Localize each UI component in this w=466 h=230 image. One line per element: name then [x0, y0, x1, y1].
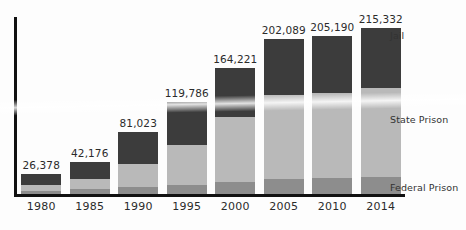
bar-segment-state-prison [361, 88, 401, 177]
y-axis-line [14, 17, 17, 197]
bar-segment-federal-prison [312, 178, 352, 194]
bar-value-label: 42,176 [71, 147, 108, 159]
bar-1990[interactable]: 81,023 [118, 132, 158, 194]
x-tick-1995: 1995 [164, 200, 210, 213]
x-tick-1980: 1980 [18, 200, 64, 213]
bar-1985[interactable]: 42,176 [70, 162, 110, 194]
x-axis-line [14, 194, 405, 197]
x-tick-2005: 2005 [261, 200, 307, 213]
bar-segment-state-prison [118, 164, 158, 187]
stacked-bar-chart: 26,37842,17681,023119,786164,221202,0892… [0, 0, 466, 230]
series-label-state-prison: State Prison [390, 114, 448, 125]
bar-segment-federal-prison [167, 185, 207, 194]
x-tick-2000: 2000 [212, 200, 258, 213]
x-tick-2010: 2010 [309, 200, 355, 213]
bar-value-label: 119,786 [165, 87, 209, 99]
bar-segment-federal-prison [215, 182, 255, 194]
bar-segment-jail [118, 132, 158, 164]
bar-value-label: 215,332 [359, 13, 403, 25]
bar-2010[interactable]: 205,190 [312, 36, 352, 194]
bar-value-label: 26,378 [23, 159, 60, 171]
bar-segment-federal-prison [118, 187, 158, 194]
bar-segment-state-prison [167, 145, 207, 185]
x-tick-1985: 1985 [67, 200, 113, 213]
bar-1980[interactable]: 26,378 [21, 174, 61, 194]
bar-segment-state-prison [70, 179, 110, 189]
bar-value-label: 205,190 [310, 21, 354, 33]
bar-segment-federal-prison [264, 179, 304, 194]
x-axis-tick-labels: 19801985199019952000200520102014 [17, 200, 405, 220]
x-tick-2014: 2014 [358, 200, 404, 213]
bar-segment-jail [215, 68, 255, 117]
bar-1995[interactable]: 119,786 [167, 102, 207, 194]
bar-2005[interactable]: 202,089 [264, 39, 304, 195]
x-tick-1990: 1990 [115, 200, 161, 213]
bar-segment-jail [167, 102, 207, 145]
bar-2000[interactable]: 164,221 [215, 68, 255, 194]
bar-segment-jail [70, 162, 110, 180]
bar-segment-state-prison [312, 93, 352, 178]
series-label-jail: Jail [390, 30, 404, 41]
bar-2014[interactable]: 215,332 [361, 28, 401, 194]
bar-segment-state-prison [215, 117, 255, 182]
series-label-federal-prison: Federal Prison [390, 182, 458, 193]
bar-segment-jail [264, 39, 304, 96]
bar-value-label: 164,221 [213, 53, 257, 65]
plot-area: 26,37842,17681,023119,786164,221202,0892… [17, 17, 405, 194]
bar-segment-jail [21, 174, 61, 185]
bar-segment-state-prison [264, 95, 304, 179]
bar-value-label: 81,023 [120, 117, 157, 129]
bar-segment-jail [312, 36, 352, 93]
bar-value-label: 202,089 [262, 24, 306, 36]
